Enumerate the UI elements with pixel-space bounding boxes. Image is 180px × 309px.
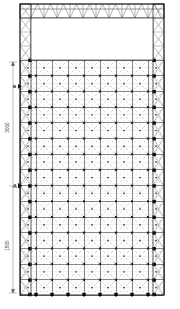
section-marker-b: B [13,84,16,89]
dimension-label-upper: 3000 [5,115,10,141]
structural-elevation-drawing [0,0,180,309]
upper-open-bay [31,18,153,60]
dimension-label-lower: 1500 [5,233,10,259]
top-chord-truss [20,4,164,18]
braced-grid-panel [20,59,164,297]
dimension-line-left [9,62,17,293]
drawing-sheet: 3000 1500 B A [0,0,180,309]
section-marker-a: A [13,183,17,189]
